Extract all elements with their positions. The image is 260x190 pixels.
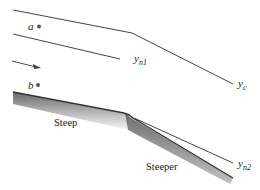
steeper-slope-label: Steeper: [146, 161, 178, 172]
point-a-label: a: [28, 20, 34, 32]
critical-depth-line: [13, 10, 233, 84]
normal-depth-line-upstream: [13, 34, 120, 59]
yn1-label: yn1: [133, 52, 147, 67]
channel-flow-diagram: a b yn1 yc yn2 Steep Steeper: [0, 0, 260, 190]
point-b-dot: [36, 83, 40, 87]
point-a-dot: [37, 25, 41, 29]
flow-arrow-icon: [12, 61, 41, 69]
yn2-label: yn2: [237, 157, 251, 172]
point-b-label: b: [28, 79, 34, 91]
yc-label: yc: [237, 77, 247, 92]
steep-slope-label: Steep: [54, 117, 77, 128]
